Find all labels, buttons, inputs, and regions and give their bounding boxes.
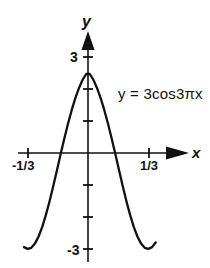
x-axis-label: x <box>192 145 200 160</box>
x-axis-arrowhead <box>166 147 189 160</box>
x-tick-label-neg-one-third: -1/3 <box>12 159 34 172</box>
y-tick-label-3: 3 <box>70 50 78 64</box>
equation-annotation: y = 3cos3πx <box>118 86 203 101</box>
x-tick-label-pos-one-third: 1/3 <box>140 159 158 172</box>
plot-svg <box>0 0 210 268</box>
y-axis-label: y <box>82 14 91 30</box>
figure-canvas: y x 3 -3 -1/3 1/3 y = 3cos3πx <box>0 0 210 268</box>
y-axis-arrowhead <box>82 31 95 50</box>
y-tick-label-neg-3: -3 <box>67 243 79 257</box>
